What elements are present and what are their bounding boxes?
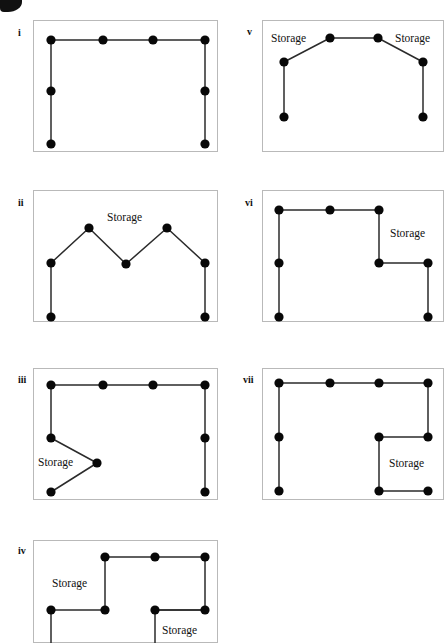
panel-iv-node-6 [200,605,209,614]
panel-iv-graph [0,0,448,643]
panel-iv-node-2 [200,552,209,561]
figure-canvas: ivStorageStorageiiStorageviStorageiiiSto… [0,0,448,643]
panel-iv-node-5 [150,605,159,614]
panel-iv-storage-label-0: Storage [52,578,87,590]
panel-iv: ivStorageStorage [0,0,448,643]
panel-iv-node-3 [100,605,109,614]
panel-iv-storage-label-1: Storage [162,625,197,637]
panel-iv-edge-1 [51,557,105,643]
panel-iv-node-4 [46,605,55,614]
panel-iv-node-1 [150,552,159,561]
panel-iv-node-0 [100,552,109,561]
